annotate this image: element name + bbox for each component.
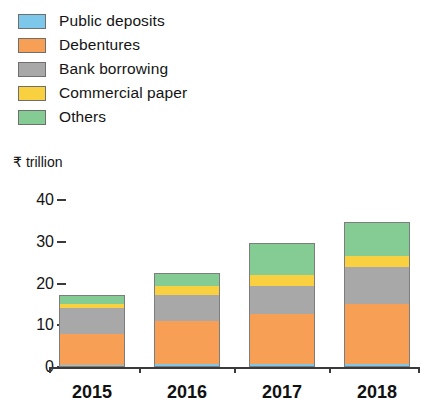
bar-segment-debentures	[154, 321, 220, 365]
bar-segment-public-deposits	[154, 364, 220, 367]
bar-segment-commercial-paper	[344, 256, 410, 267]
bar-segment-others	[344, 222, 410, 257]
x-axis-tick-mark	[418, 367, 420, 373]
bar-segment-debentures	[249, 314, 315, 365]
x-axis-label-2016: 2016	[142, 383, 232, 401]
bar-segment-debentures	[59, 334, 125, 365]
y-axis-tick-label: 20	[10, 276, 54, 292]
x-axis-label-2017: 2017	[237, 383, 327, 401]
x-axis-tick-mark	[49, 367, 51, 373]
x-axis-tick-mark	[139, 367, 141, 373]
plot-area: 0102030402015201620172018	[0, 0, 428, 407]
bar-segment-public-deposits	[59, 365, 125, 367]
x-axis-label-2018: 2018	[332, 383, 422, 401]
y-axis-tick-label: 10	[10, 317, 54, 333]
bar-segment-debentures	[344, 304, 410, 364]
bar-segment-others	[59, 295, 125, 304]
bar-segment-bank-borrowing	[344, 267, 410, 304]
stacked-bar-chart: Public deposits Debentures Bank borrowin…	[0, 0, 428, 407]
bar-segment-public-deposits	[344, 364, 410, 367]
bar-segment-bank-borrowing	[154, 295, 220, 321]
bar-2018	[344, 0, 410, 367]
bar-segment-public-deposits	[249, 364, 315, 367]
bar-2016	[154, 0, 220, 367]
bar-segment-others	[154, 273, 220, 286]
bar-2015	[59, 0, 125, 367]
y-axis-tick-label: 0	[10, 359, 54, 375]
bar-segment-bank-borrowing	[249, 286, 315, 314]
bar-segment-commercial-paper	[154, 286, 220, 295]
y-axis-tick-label: 40	[10, 192, 54, 208]
bar-segment-commercial-paper	[59, 304, 125, 308]
bar-segment-bank-borrowing	[59, 308, 125, 334]
bar-segment-commercial-paper	[249, 275, 315, 286]
bar-2017	[249, 0, 315, 367]
x-axis-tick-mark	[329, 367, 331, 373]
x-axis-tick-mark	[234, 367, 236, 373]
x-axis-label-2015: 2015	[47, 383, 137, 401]
y-axis-tick-label: 30	[10, 234, 54, 250]
bar-segment-others	[249, 243, 315, 275]
